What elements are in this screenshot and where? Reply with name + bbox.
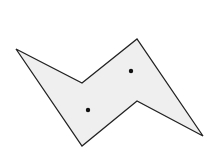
diagram-svg xyxy=(0,0,216,152)
concave-polygon xyxy=(16,39,203,146)
interior-dot-upper xyxy=(129,69,133,73)
interior-dot-lower xyxy=(86,108,90,112)
diagram-canvas xyxy=(0,0,216,152)
